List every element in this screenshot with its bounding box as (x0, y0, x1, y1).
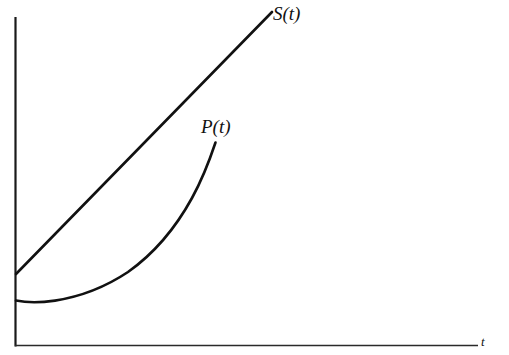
chart-figure: S(t) P(t) t (0, 0, 509, 355)
x-axis-label: t (481, 335, 485, 348)
series-label-P: P(t) (201, 117, 231, 136)
series-label-S: S(t) (273, 4, 300, 23)
series-line-S (16, 12, 272, 274)
plot-canvas (0, 0, 509, 355)
series-curve-P (16, 143, 216, 303)
